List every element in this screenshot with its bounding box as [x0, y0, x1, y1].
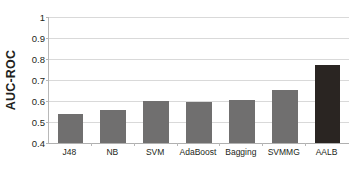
bar-slot: [49, 17, 92, 143]
bar: [58, 114, 84, 143]
y-axis-tick-label: 0.4: [20, 138, 45, 149]
y-axis-tick-label: 0.6: [20, 96, 45, 107]
x-axis-tick-mark: [262, 143, 263, 146]
x-axis-category-label: NB: [106, 147, 118, 157]
x-axis-category-label: SVM: [146, 147, 164, 157]
x-axis-tick-mark: [91, 143, 92, 146]
x-axis-tick-mark: [305, 143, 306, 146]
y-axis-tick-label: 0.8: [20, 54, 45, 65]
bar-slot: [178, 17, 221, 143]
bar-slot: [263, 17, 306, 143]
bar-series: [49, 17, 349, 143]
bar: [315, 65, 341, 143]
x-axis-category-labels: J48NBSVMAdaBoostBaggingSVMMGAALB: [48, 147, 348, 163]
x-axis-tick-mark: [219, 143, 220, 146]
bar: [272, 90, 298, 143]
y-axis-tick-label: 0.7: [20, 75, 45, 86]
y-axis-tick-labels: 10.90.80.70.60.50.4: [20, 17, 45, 143]
x-axis-tick-mark: [134, 143, 135, 146]
x-axis-category-label: AALB: [316, 147, 338, 157]
x-axis-tick-mark: [177, 143, 178, 146]
y-axis-tick-label: 0.5: [20, 117, 45, 128]
x-axis-category-label: J48: [63, 147, 77, 157]
bar: [229, 100, 255, 143]
bar: [143, 101, 169, 143]
y-axis-tick-label: 0.9: [20, 33, 45, 44]
bar: [186, 102, 212, 143]
x-axis-category-label: SVMMG: [268, 147, 300, 157]
bar-chart-figure: AUC-ROC 10.90.80.70.60.50.4 J48NBSVMAdaB…: [0, 0, 357, 170]
bar-slot: [306, 17, 349, 143]
bar-slot: [135, 17, 178, 143]
plot-area: [48, 17, 349, 143]
y-axis-tick-label: 1: [20, 12, 45, 23]
x-axis-category-label: AdaBoost: [180, 147, 217, 157]
bar: [100, 110, 126, 143]
bar-slot: [220, 17, 263, 143]
bar-slot: [92, 17, 135, 143]
y-axis-title: AUC-ROC: [0, 0, 22, 160]
x-axis-category-label: Bagging: [225, 147, 256, 157]
y-axis-title-text: AUC-ROC: [4, 50, 18, 110]
